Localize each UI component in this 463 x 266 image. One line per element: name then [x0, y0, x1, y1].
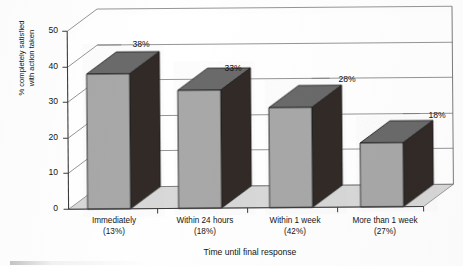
data-label-1: 38%	[124, 39, 158, 49]
x-category-name-3: Within 1 week	[243, 216, 347, 227]
y-axis-title: % completely satisfied with action taken	[17, 0, 37, 133]
bar-chart-figure: % completely satisfied with action taken…	[0, 0, 463, 266]
y-tick-label-0: 0	[36, 203, 58, 213]
x-axis-title: Time until final response	[150, 247, 350, 257]
data-label-3: 28%	[330, 74, 364, 84]
y-tick-label-50: 50	[36, 25, 58, 35]
data-label-4: 18%	[420, 110, 454, 120]
bar-front-face	[269, 107, 313, 207]
y-tick-label-40: 40	[36, 61, 58, 71]
bar-immediately	[86, 52, 160, 210]
y-axis-title-line1: % completely satisfied	[17, 0, 27, 133]
bar-front-face	[178, 90, 222, 208]
y-tick-label-30: 30	[36, 96, 58, 106]
x-category-name-4: More than 1 week	[333, 216, 437, 227]
bar-within-1-week	[269, 85, 343, 208]
x-category-sub-1: (13%)	[62, 227, 166, 238]
scan-edge-artifact	[10, 261, 150, 265]
bar-side-face	[220, 68, 251, 208]
bar-front-face	[87, 74, 131, 209]
x-category-name-1: Immediately	[62, 216, 166, 227]
data-label-2: 33%	[216, 63, 250, 73]
x-category-label-3: Within 1 week (42%)	[243, 216, 347, 237]
y-tick-label-10: 10	[36, 167, 58, 177]
bar-side-face	[129, 52, 160, 209]
x-category-sub-4: (27%)	[333, 227, 437, 238]
x-category-sub-3: (42%)	[243, 227, 347, 238]
x-category-label-1: Immediately (13%)	[62, 216, 166, 237]
x-category-sub-2: (18%)	[153, 227, 257, 238]
x-category-label-4: More than 1 week (27%)	[333, 216, 437, 237]
x-category-label-2: Within 24 hours (18%)	[153, 216, 257, 237]
y-tick-label-20: 20	[36, 132, 58, 142]
x-category-name-2: Within 24 hours	[153, 216, 257, 227]
bar-front-face	[360, 143, 404, 207]
bar-within-24-hours	[177, 68, 251, 209]
